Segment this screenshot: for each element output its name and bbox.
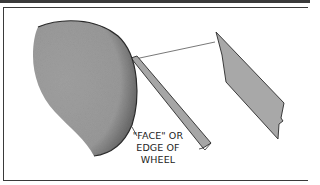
blade: [216, 32, 284, 139]
label-line-1: "FACE" OR: [128, 130, 188, 142]
face-edge-label: "FACE" OR EDGE OF WHEEL: [128, 130, 188, 166]
grinding-wheel: [33, 21, 137, 156]
label-line-2: EDGE OF: [128, 142, 188, 154]
guide-line: [135, 42, 215, 59]
label-line-3: WHEEL: [128, 154, 188, 166]
